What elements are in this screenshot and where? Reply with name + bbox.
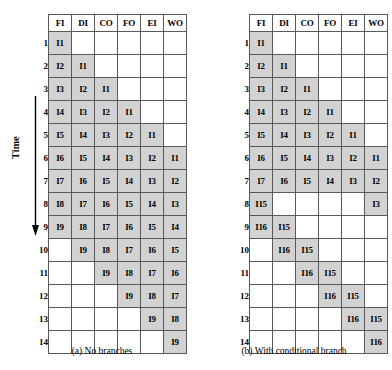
- stage-cell-I15: I15: [296, 239, 319, 262]
- stage-cell-empty: [319, 55, 342, 78]
- table-row: 12I9I8I7: [26, 285, 187, 308]
- stage-cell-empty: [72, 285, 95, 308]
- row-number-8: 8: [26, 193, 49, 216]
- table-row: 8I15I3: [227, 193, 388, 216]
- stage-cell-empty: [365, 262, 388, 285]
- pipeline-table-a: FI DI CO FO EI WO 1I12I2I13I3I2I14I4I3I2…: [26, 14, 187, 354]
- pipeline-grid-b: FI DI CO FO EI WO 1I12I2I13I3I2I14I4I3I2…: [227, 14, 388, 354]
- stage-cell-I7: I7: [250, 170, 273, 193]
- stage-cell-empty: [365, 55, 388, 78]
- stage-cell-I1: I1: [164, 147, 187, 170]
- stage-cell-empty: [49, 308, 72, 331]
- row-number-5: 5: [227, 124, 250, 147]
- row-number-6: 6: [227, 147, 250, 170]
- corner-cell: [227, 15, 250, 32]
- table-header-row: FI DI CO FO EI WO: [227, 15, 388, 32]
- stage-cell-I2: I2: [342, 147, 365, 170]
- stage-cell-I7: I7: [141, 262, 164, 285]
- stage-cell-I1: I1: [49, 32, 72, 55]
- stage-cell-empty: [250, 262, 273, 285]
- stage-cell-I5: I5: [250, 124, 273, 147]
- row-number-12: 12: [227, 285, 250, 308]
- column-header-wo: WO: [365, 15, 388, 32]
- stage-cell-empty: [273, 285, 296, 308]
- column-header-di: DI: [72, 15, 95, 32]
- stage-cell-I15: I15: [273, 216, 296, 239]
- stage-cell-empty: [342, 193, 365, 216]
- table-row: 7I7I6I5I4I3I2: [227, 170, 388, 193]
- table-row: 2I2I1: [227, 55, 388, 78]
- stage-cell-empty: [365, 285, 388, 308]
- stage-cell-I5: I5: [296, 170, 319, 193]
- stage-cell-I4: I4: [250, 101, 273, 124]
- column-header-fi: FI: [49, 15, 72, 32]
- row-number-10: 10: [227, 239, 250, 262]
- stage-cell-empty: [141, 32, 164, 55]
- stage-cell-I9: I9: [118, 285, 141, 308]
- stage-cell-I1: I1: [141, 124, 164, 147]
- stage-cell-I2: I2: [319, 124, 342, 147]
- stage-cell-I2: I2: [95, 101, 118, 124]
- stage-cell-I3: I3: [296, 124, 319, 147]
- stage-cell-I7: I7: [72, 193, 95, 216]
- stage-cell-I9: I9: [95, 262, 118, 285]
- stage-cell-I3: I3: [365, 193, 388, 216]
- stage-cell-empty: [118, 78, 141, 101]
- stage-cell-empty: [342, 32, 365, 55]
- stage-cell-I5: I5: [164, 239, 187, 262]
- stage-cell-I8: I8: [118, 262, 141, 285]
- stage-cell-I1: I1: [273, 55, 296, 78]
- stage-cell-I3: I3: [319, 147, 342, 170]
- stage-cell-I15: I15: [342, 285, 365, 308]
- stage-cell-I4: I4: [118, 170, 141, 193]
- table-row: 10I16I15: [227, 239, 388, 262]
- stage-cell-I1: I1: [319, 101, 342, 124]
- row-number-5: 5: [26, 124, 49, 147]
- row-number-1: 1: [227, 32, 250, 55]
- table-row: 5I5I4I3I2I1: [26, 124, 187, 147]
- table-row: 13I16I15: [227, 308, 388, 331]
- stage-cell-I5: I5: [273, 147, 296, 170]
- stage-cell-I1: I1: [296, 78, 319, 101]
- row-number-9: 9: [227, 216, 250, 239]
- stage-cell-I6: I6: [49, 147, 72, 170]
- stage-cell-I1: I1: [118, 101, 141, 124]
- stage-cell-empty: [250, 239, 273, 262]
- row-number-4: 4: [227, 101, 250, 124]
- stage-cell-I3: I3: [250, 78, 273, 101]
- table-row: 7I7I6I5I4I3I2: [26, 170, 187, 193]
- stage-cell-empty: [319, 78, 342, 101]
- stage-cell-I3: I3: [49, 78, 72, 101]
- stage-cell-empty: [164, 101, 187, 124]
- stage-cell-empty: [296, 285, 319, 308]
- table-row: 9I16I15: [227, 216, 388, 239]
- table-row: 3I3I2I1: [26, 78, 187, 101]
- stage-cell-empty: [342, 262, 365, 285]
- stage-cell-empty: [296, 32, 319, 55]
- row-number-10: 10: [26, 239, 49, 262]
- stage-cell-I5: I5: [95, 170, 118, 193]
- stage-cell-I15: I15: [365, 308, 388, 331]
- table-body-a: 1I12I2I13I3I2I14I4I3I2I15I5I4I3I2I16I6I5…: [26, 32, 187, 354]
- stage-cell-I1: I1: [250, 32, 273, 55]
- stage-cell-I6: I6: [164, 262, 187, 285]
- stage-cell-I2: I2: [72, 78, 95, 101]
- stage-cell-empty: [319, 216, 342, 239]
- column-header-fi: FI: [250, 15, 273, 32]
- stage-cell-I5: I5: [141, 216, 164, 239]
- stage-cell-empty: [365, 216, 388, 239]
- column-header-di: DI: [273, 15, 296, 32]
- stage-cell-I2: I2: [118, 124, 141, 147]
- stage-cell-I15: I15: [250, 193, 273, 216]
- stage-cell-empty: [365, 124, 388, 147]
- stage-cell-empty: [164, 55, 187, 78]
- stage-cell-empty: [273, 262, 296, 285]
- stage-cell-empty: [319, 32, 342, 55]
- table-body-b: 1I12I2I13I3I2I14I4I3I2I15I5I4I3I2I16I6I5…: [227, 32, 388, 354]
- stage-cell-empty: [319, 308, 342, 331]
- stage-cell-I4: I4: [49, 101, 72, 124]
- stage-cell-I4: I4: [72, 124, 95, 147]
- table-header-row: FI DI CO FO EI WO: [26, 15, 187, 32]
- stage-cell-I5: I5: [72, 147, 95, 170]
- stage-cell-I8: I8: [72, 216, 95, 239]
